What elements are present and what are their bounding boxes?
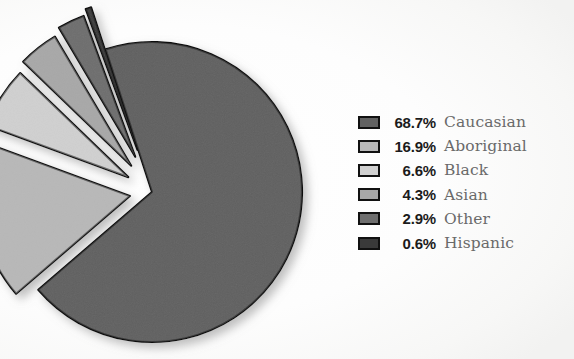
- legend-item-aboriginal[interactable]: 16.9% Aboriginal: [358, 134, 574, 158]
- legend-item-asian[interactable]: 4.3% Asian: [358, 183, 574, 207]
- pie-chart-svg: [0, 0, 350, 359]
- legend-percent-asian: 4.3%: [380, 186, 444, 203]
- legend-label-asian: Asian: [444, 186, 488, 204]
- legend-label-other: Other: [444, 210, 490, 228]
- legend-label-hispanic: Hispanic: [444, 234, 514, 252]
- legend-swatch-hispanic: [358, 237, 380, 250]
- legend-label-aboriginal: Aboriginal: [444, 137, 527, 155]
- legend-label-caucasian: Caucasian: [444, 113, 526, 131]
- legend-item-black[interactable]: 6.6% Black: [358, 158, 574, 182]
- legend-swatch-aboriginal: [358, 140, 380, 153]
- pie-chart: [0, 0, 350, 359]
- legend-percent-black: 6.6%: [380, 162, 444, 179]
- legend-percent-caucasian: 68.7%: [380, 114, 444, 131]
- legend-item-other[interactable]: 2.9% Other: [358, 207, 574, 231]
- legend-item-hispanic[interactable]: 0.6% Hispanic: [358, 231, 574, 255]
- legend-swatch-other: [358, 212, 380, 225]
- chart-legend: 68.7% Caucasian 16.9% Aboriginal 6.6% Bl…: [358, 110, 574, 255]
- legend-percent-aboriginal: 16.9%: [380, 138, 444, 155]
- legend-percent-other: 2.9%: [380, 210, 444, 227]
- legend-percent-hispanic: 0.6%: [380, 235, 444, 252]
- legend-swatch-asian: [358, 188, 380, 201]
- chart-page: 68.7% Caucasian 16.9% Aboriginal 6.6% Bl…: [0, 0, 574, 359]
- legend-item-caucasian[interactable]: 68.7% Caucasian: [358, 110, 574, 134]
- legend-swatch-black: [358, 164, 380, 177]
- legend-swatch-caucasian: [358, 116, 380, 129]
- legend-label-black: Black: [444, 161, 488, 179]
